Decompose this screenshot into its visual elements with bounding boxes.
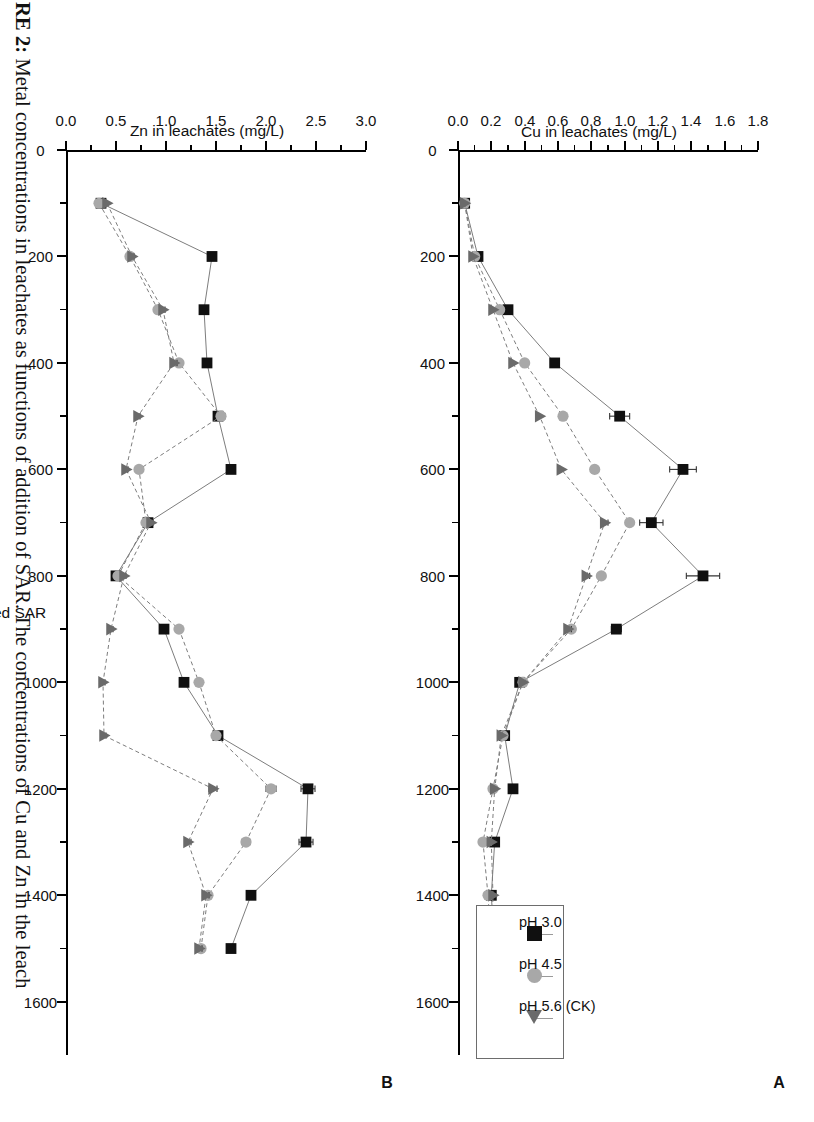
x-tick-minor [61, 735, 67, 737]
legend-item[interactable]: pH 5.6 (CK) [485, 1002, 555, 1042]
x-tick-minor [453, 202, 459, 204]
y-tick-label: 0.5 [106, 112, 127, 129]
y-tick [115, 141, 117, 150]
x-tick [57, 788, 66, 790]
y-tick-minor [340, 145, 342, 151]
figure-canvas: Cu in leachates (mg/L) A 020040060080010… [30, 0, 814, 1122]
y-tick-label: 0.2 [481, 112, 502, 129]
y-tick [65, 141, 67, 150]
y-tick-minor [140, 145, 142, 151]
x-tick [57, 575, 66, 577]
y-tick-label: 0.4 [514, 112, 535, 129]
x-tick-label: 1000 [24, 674, 57, 691]
x-tick-label: 1200 [24, 780, 57, 797]
y-tick-minor [474, 145, 476, 151]
x-tick [449, 575, 458, 577]
x-tick-minor [61, 628, 67, 630]
y-tick-label: 1.8 [748, 112, 769, 129]
y-tick-label: 1.5 [206, 112, 227, 129]
x-tick [449, 894, 458, 896]
x-tick-minor [453, 415, 459, 417]
y-tick-label: 0.6 [548, 112, 569, 129]
x-tick [449, 681, 458, 683]
x-tick-minor [453, 735, 459, 737]
y-tick [215, 141, 217, 150]
x-tick [57, 255, 66, 257]
x-tick-label: 400 [28, 354, 53, 371]
x-tick-label: 0 [428, 142, 436, 159]
y-tick-minor [290, 145, 292, 151]
y-tick-label: 0.0 [448, 112, 469, 129]
y-tick [524, 141, 526, 150]
y-tick [490, 141, 492, 150]
y-tick [365, 141, 367, 150]
y-tick [624, 141, 626, 150]
y-tick-label: 2.0 [256, 112, 277, 129]
legend-label: pH 4.5 [519, 956, 562, 972]
legend-item[interactable]: pH 4.5 [485, 960, 555, 1000]
y-tick-minor [507, 145, 509, 151]
x-tick-minor [61, 309, 67, 311]
y-tick-minor [541, 145, 543, 151]
y-tick-minor [641, 145, 643, 151]
x-tick-minor [453, 628, 459, 630]
y-tick-minor [574, 145, 576, 151]
y-tick-minor [741, 145, 743, 151]
x-tick-label: 1400 [24, 887, 57, 904]
y-tick [690, 141, 692, 150]
y-tick-minor [90, 145, 92, 151]
y-tick [315, 141, 317, 150]
y-tick-minor [240, 145, 242, 151]
y-tick [757, 141, 759, 150]
y-tick-label: 1.4 [681, 112, 702, 129]
y-tick-label: 1.2 [648, 112, 669, 129]
panel-letter-b: B [381, 1074, 393, 1092]
x-tick-label: 600 [28, 461, 53, 478]
x-tick-label: 800 [28, 567, 53, 584]
x-tick-minor [61, 948, 67, 950]
legend-label: pH 5.6 (CK) [519, 998, 596, 1014]
y-tick-label: 1.0 [156, 112, 177, 129]
x-tick-minor [61, 415, 67, 417]
y-tick [657, 141, 659, 150]
x-tick-minor [453, 522, 459, 524]
y-tick-minor [190, 145, 192, 151]
x-tick-minor [61, 841, 67, 843]
x-tick [449, 1001, 458, 1003]
x-tick [57, 894, 66, 896]
plot-area-zn: Zn in leachates (mg/L) mm of added SAR B… [66, 150, 366, 1055]
x-tick-label: 800 [420, 567, 445, 584]
x-tick [449, 255, 458, 257]
y-tick-minor [674, 145, 676, 151]
legend-label: pH 3.0 [519, 914, 562, 930]
y-tick-minor [607, 145, 609, 151]
y-tick [590, 141, 592, 150]
y-tick [724, 141, 726, 150]
y-tick [557, 141, 559, 150]
x-tick [57, 681, 66, 683]
series-layer-zn [66, 150, 366, 1055]
x-tick [449, 468, 458, 470]
x-tick [449, 788, 458, 790]
x-tick-minor [453, 309, 459, 311]
series-circle-marker [459, 198, 635, 954]
x-tick-label: 600 [420, 461, 445, 478]
x-tick-minor [453, 841, 459, 843]
y-tick-label: 0.0 [56, 112, 77, 129]
x-tick-label: 1600 [24, 993, 57, 1010]
legend-item[interactable]: pH 3.0 [485, 918, 555, 958]
x-tick [449, 362, 458, 364]
y-tick-label: 3.0 [356, 112, 377, 129]
x-tick-label: 0 [36, 142, 44, 159]
y-tick [265, 141, 267, 150]
x-tick-label: 200 [28, 248, 53, 265]
x-tick-label: 200 [420, 248, 445, 265]
panel-zn: Zn in leachates (mg/L) mm of added SAR B… [30, 0, 422, 1122]
x-tick [57, 362, 66, 364]
x-axis-title: mm of added SAR [0, 604, 46, 622]
x-tick-minor [453, 948, 459, 950]
x-tick-minor [61, 522, 67, 524]
x-tick-label: 400 [420, 354, 445, 371]
y-tick-minor [707, 145, 709, 151]
panel-letter-a: A [773, 1074, 785, 1092]
